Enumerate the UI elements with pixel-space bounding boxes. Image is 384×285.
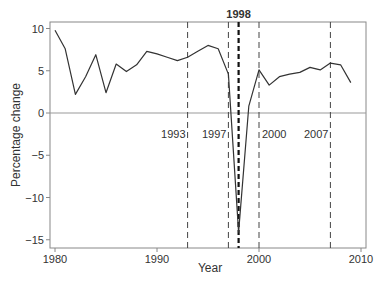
event-lines: 19931997199820002007 [161,8,330,248]
y-tick-label: 0 [38,107,44,119]
y-tick-label: 10 [32,23,44,35]
y-tick-label: −10 [25,192,44,204]
x-tick-label: 2000 [247,253,271,265]
event-label-1993: 1993 [161,128,185,140]
x-tick-label: 1990 [145,253,169,265]
event-label-2000: 2000 [262,128,286,140]
event-label-2007: 2007 [304,128,328,140]
y-axis-label: Percentage change [9,83,23,187]
event-label-1997: 1997 [202,128,226,140]
x-tick-label: 2010 [349,253,373,265]
x-tick-label: 1980 [43,253,67,265]
y-tick-label: −15 [25,234,44,246]
line-chart: 19931997199820002007 1050−5−10−15 198019… [0,0,384,285]
event-label-1998: 1998 [226,8,250,20]
y-tick-label: −5 [31,149,44,161]
y-tick-label: 5 [38,65,44,77]
y-axis-ticks: 1050−5−10−15 [25,23,50,246]
x-axis-label: Year [198,261,222,275]
